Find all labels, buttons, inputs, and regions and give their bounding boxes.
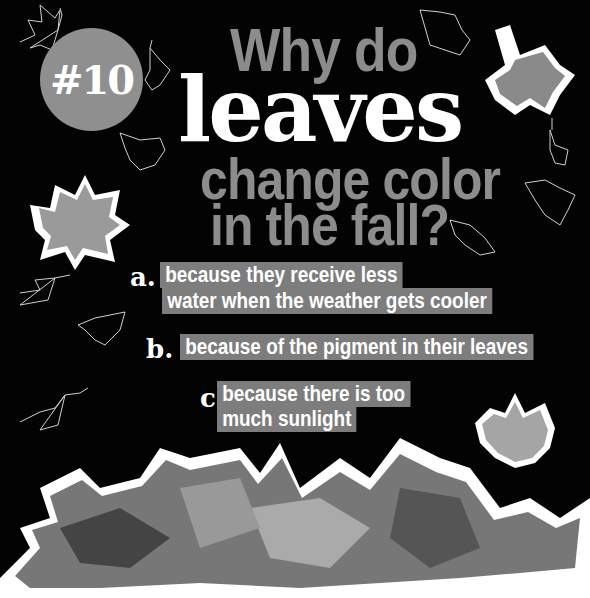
answer-a-letter: a.	[130, 262, 156, 292]
quiz-page: #10 Why do leaves change color in the fa…	[0, 0, 590, 598]
answer-a-line-1[interactable]: because they receive less	[160, 262, 403, 288]
maple-leaf-photo-left	[25, 170, 135, 270]
leaf-pile-photo	[0, 428, 590, 598]
title-line-2: leaves	[178, 64, 461, 154]
page-number: 27	[553, 571, 578, 592]
answer-c-line-2[interactable]: much sunlight	[217, 406, 357, 432]
answer-b-line-1[interactable]: because of the pigment in their leaves	[180, 334, 533, 360]
question-number-badge: #10	[40, 28, 143, 131]
question-number: #10	[50, 56, 133, 103]
answer-b-letter: b.	[146, 334, 173, 364]
maple-leaf-photo-top-right	[485, 20, 585, 125]
answer-c-line-1[interactable]: because there is too	[217, 381, 410, 407]
answer-a-line-2[interactable]: water when the weather gets cooler	[162, 288, 492, 314]
title-line-4: in the fall?	[210, 198, 449, 252]
